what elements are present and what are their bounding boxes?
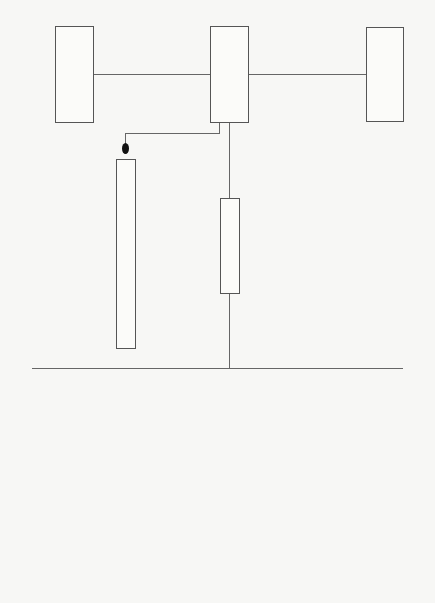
- connector-liaison-bus: [229, 293, 230, 368]
- committee-bus: [32, 368, 403, 369]
- connector-director-exhibit-down: [219, 122, 220, 133]
- junction-dot-icon: [122, 143, 129, 154]
- connector-director-liaison: [229, 122, 230, 198]
- connector-right-council: [248, 74, 366, 75]
- connector-director-exhibit-across: [125, 133, 220, 134]
- left-council-box: [55, 26, 94, 123]
- director-box: [210, 26, 249, 123]
- exhibit-planning-box: [116, 159, 136, 349]
- right-council-box: [366, 27, 404, 122]
- connector-left-council: [93, 74, 210, 75]
- liaison-box: [220, 198, 240, 294]
